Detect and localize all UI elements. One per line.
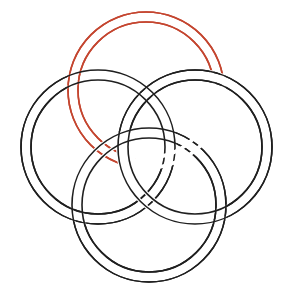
east-band-outer-circle	[118, 70, 272, 224]
knot-figure	[0, 0, 290, 301]
east-band	[118, 70, 272, 224]
knot-canvas	[0, 0, 290, 301]
east-band-inner-circle	[128, 80, 262, 214]
